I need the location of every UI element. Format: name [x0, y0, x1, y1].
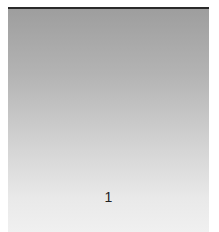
page-thumbnail[interactable]: 1: [8, 7, 209, 232]
page-number-label: 1: [8, 189, 209, 205]
